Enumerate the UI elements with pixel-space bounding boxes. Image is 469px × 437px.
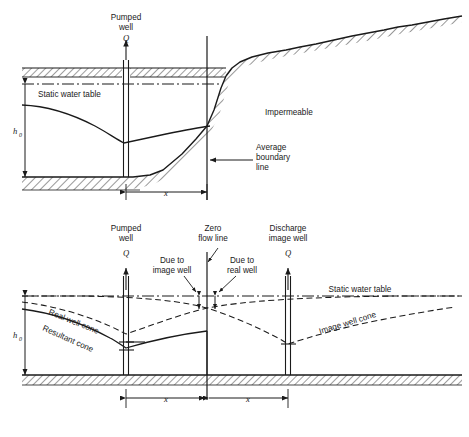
lower-pumped-well-label-2: well [118, 234, 133, 243]
lower-h0-subscript: 0 [19, 336, 22, 342]
lower-pumped-well-casing [119, 276, 134, 375]
upper-h0-label: h [13, 126, 17, 136]
lower-x-label-left: x [163, 394, 168, 404]
lower-x-label-right: x [245, 394, 250, 404]
zero-flow-label-1: Zero [205, 224, 222, 233]
image-well-cone-curve [22, 296, 455, 344]
due-to-real-well-label-1: Due to [230, 256, 255, 265]
well-boundary-diagram: Pumped well Q Static water table Imperme… [0, 0, 469, 437]
lower-h0-label: h [13, 330, 17, 340]
drawdown-indicator-arrows [184, 248, 236, 309]
upper-discharge-q-label: Q [123, 33, 130, 43]
upper-pumped-well-casing [124, 60, 129, 177]
image-well-casing [281, 276, 296, 375]
lower-bedrock-base [22, 375, 462, 385]
due-to-image-well-label-1: Due to [160, 256, 185, 265]
due-to-real-well-label-2: real well [227, 266, 257, 275]
upper-x-label: x [163, 188, 168, 198]
lower-panel: Pumped well Q Zero flow line Discharge i… [13, 224, 462, 408]
upper-panel: Pumped well Q Static water table Imperme… [13, 13, 462, 200]
lower-pumped-q-label: Q [123, 248, 130, 258]
upper-boundary-label-1: Average [256, 143, 287, 152]
discharge-image-well-label-1: Discharge [270, 224, 307, 233]
upper-pumped-well-label-1: Pumped [111, 13, 142, 22]
lower-pumped-well-label-1: Pumped [111, 224, 142, 233]
upper-drawdown-cone [22, 105, 210, 143]
lower-image-q-label: Q [285, 248, 292, 258]
lower-static-water-table-label: Static water table [329, 285, 392, 294]
upper-pumped-well-label-2: well [118, 23, 133, 32]
zero-flow-label-2: flow line [198, 234, 228, 243]
upper-boundary-label-3: line [256, 163, 269, 172]
upper-impermeable-label: Impermeable [265, 108, 313, 117]
image-well-cone-label: Image well cone [318, 310, 378, 336]
discharge-image-well-label-2: image well [269, 234, 308, 243]
upper-static-water-table-label: Static water table [38, 90, 101, 99]
impermeable-formation [22, 16, 462, 190]
upper-boundary-label-2: boundary [256, 153, 291, 162]
due-to-image-well-label-2: image well [153, 266, 192, 275]
upper-h0-subscript: 0 [19, 132, 22, 138]
